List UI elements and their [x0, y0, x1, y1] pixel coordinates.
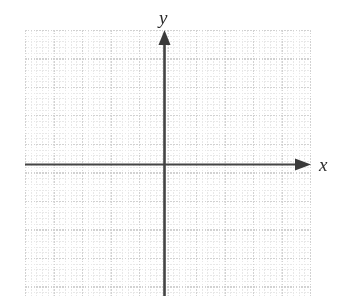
- grid-dot-mask: [25, 30, 311, 296]
- y-axis-label: y: [159, 8, 167, 27]
- coordinate-grid-figure: y x: [0, 0, 337, 308]
- grid-background: [25, 30, 311, 296]
- x-axis-label: x: [319, 155, 327, 174]
